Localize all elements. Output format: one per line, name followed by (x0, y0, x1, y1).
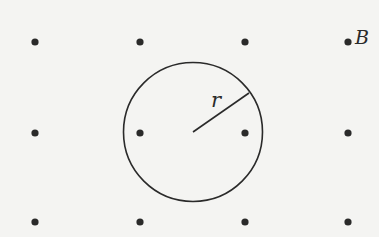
field-dot-icon (241, 129, 248, 136)
field-dot-icon (344, 218, 351, 225)
field-label-b: B (354, 26, 369, 48)
field-dot-icon (344, 38, 351, 45)
field-dots-out-of-page (31, 38, 351, 225)
field-dot-icon (344, 129, 351, 136)
field-dot-icon (136, 129, 143, 136)
field-dot-icon (241, 218, 248, 225)
field-dot-icon (31, 38, 38, 45)
radius-label: r (211, 88, 223, 112)
field-dot-icon (136, 218, 143, 225)
field-dot-icon (31, 218, 38, 225)
magnetic-field-diagram: r B (0, 0, 379, 237)
field-dot-icon (31, 129, 38, 136)
field-dot-icon (136, 38, 143, 45)
field-dot-icon (241, 38, 248, 45)
